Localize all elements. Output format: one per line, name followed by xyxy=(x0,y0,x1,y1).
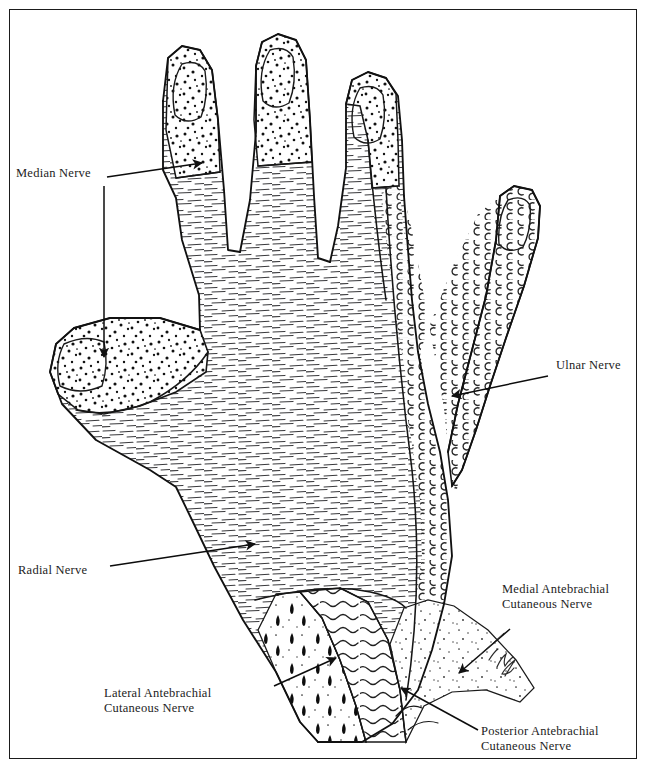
nerve-distribution-figure: Median Nerve Ulnar Nerve Radial Nerve Me… xyxy=(0,0,647,769)
label-medial-antebrachial-cutaneous-nerve: Medial Antebrachial Cutaneous Nerve xyxy=(502,582,609,612)
label-posterior-antebrachial-cutaneous-nerve: Posterior Antebrachial Cutaneous Nerve xyxy=(481,724,599,754)
label-median-nerve: Median Nerve xyxy=(16,166,91,181)
hand-nerve-illustration xyxy=(0,0,647,769)
label-ulnar-nerve: Ulnar Nerve xyxy=(556,358,621,373)
label-radial-nerve: Radial Nerve xyxy=(18,563,87,578)
label-lateral-antebrachial-cutaneous-nerve: Lateral Antebrachial Cutaneous Nerve xyxy=(104,686,211,716)
